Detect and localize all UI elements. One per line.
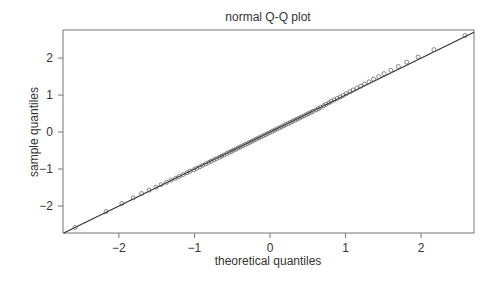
data-point bbox=[372, 77, 376, 81]
x-tick-label: −2 bbox=[112, 241, 126, 255]
data-point bbox=[382, 72, 386, 76]
x-tick-label: −1 bbox=[188, 241, 202, 255]
x-tick-label: 2 bbox=[418, 241, 425, 255]
y-tick-label: 2 bbox=[46, 51, 53, 65]
chart-title: normal Q-Q plot bbox=[225, 10, 311, 24]
y-tick-label: 0 bbox=[46, 125, 53, 139]
reference-line bbox=[64, 32, 474, 233]
x-tick-label: 1 bbox=[342, 241, 349, 255]
y-axis: −2−1012 bbox=[39, 51, 63, 213]
x-tick-label: 0 bbox=[267, 241, 274, 255]
data-point bbox=[396, 65, 400, 69]
data-point bbox=[405, 60, 409, 64]
qq-plot: normal Q-Q plot −2−1012 −2−1012 theoreti… bbox=[0, 0, 499, 284]
y-tick-label: 1 bbox=[46, 88, 53, 102]
data-point bbox=[432, 48, 436, 52]
x-axis: −2−1012 bbox=[112, 233, 425, 255]
y-tick-label: −1 bbox=[39, 162, 53, 176]
data-point bbox=[416, 55, 420, 59]
y-tick-label: −2 bbox=[39, 199, 53, 213]
data-point bbox=[389, 68, 393, 72]
x-axis-label: theoretical quantiles bbox=[215, 254, 322, 268]
data-point bbox=[377, 75, 381, 79]
y-axis-label: sample quantiles bbox=[27, 87, 41, 177]
